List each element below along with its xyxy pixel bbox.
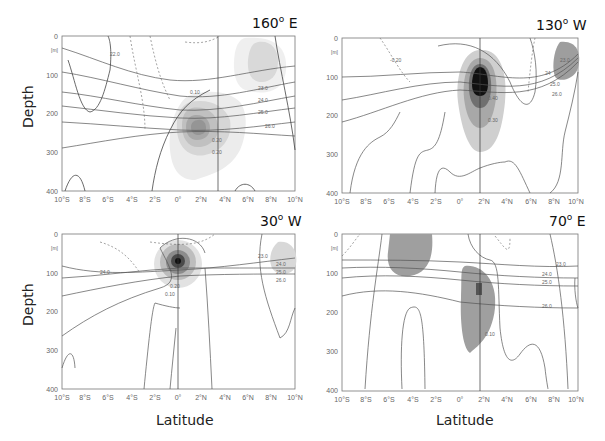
svg-text:6°S: 6°S	[383, 396, 395, 403]
svg-text:100: 100	[326, 74, 338, 81]
svg-text:4°S: 4°S	[407, 198, 419, 205]
svg-text:24: 24	[545, 70, 551, 76]
svg-text:2°S: 2°S	[149, 196, 161, 203]
anomaly-shading	[388, 234, 496, 353]
svg-text:2°N: 2°N	[195, 394, 207, 401]
svg-text:2°S: 2°S	[149, 394, 161, 401]
svg-text:6°N: 6°N	[242, 196, 254, 203]
panel-title-30w: 30o W	[260, 212, 302, 229]
svg-text:0°: 0°	[175, 394, 182, 401]
svg-text:4°N: 4°N	[501, 396, 513, 403]
svg-text:200: 200	[326, 112, 338, 119]
svg-text:200: 200	[46, 110, 58, 117]
svg-text:8°S: 8°S	[79, 394, 91, 401]
svg-text:25.0: 25.0	[258, 109, 268, 115]
svg-text:6°N: 6°N	[525, 396, 537, 403]
svg-text:8°S: 8°S	[360, 396, 372, 403]
svg-text:0: 0	[54, 33, 58, 40]
svg-text:300: 300	[46, 347, 58, 354]
chart-panel-160e: 22.0 23.0 24.0 25.0 26.0 0.20 0.20 0.10 …	[40, 30, 305, 210]
svg-text:24.0: 24.0	[258, 97, 268, 103]
svg-text:100: 100	[326, 270, 338, 277]
svg-text:26.0: 26.0	[552, 91, 562, 97]
svg-text:300: 300	[326, 151, 338, 158]
svg-text:-0.20: -0.20	[390, 57, 402, 63]
svg-text:26.0: 26.0	[265, 123, 275, 129]
chart-panel-30w: 24.0 23.0 24.0 25.0 26.0 0.20 0.10 10°S …	[40, 228, 305, 408]
svg-text:8°N: 8°N	[548, 198, 560, 205]
svg-text:0.30: 0.30	[488, 117, 498, 123]
svg-text:10°N: 10°N	[568, 396, 584, 403]
svg-text:10°S: 10°S	[54, 196, 70, 203]
svg-text:23.0: 23.0	[556, 261, 566, 267]
svg-text:0.10: 0.10	[165, 291, 175, 297]
svg-text:23.0: 23.0	[258, 85, 268, 91]
svg-text:100: 100	[46, 72, 58, 79]
panel-title-160e: 160o E	[252, 14, 298, 31]
svg-text:10°S: 10°S	[54, 394, 70, 401]
svg-text:4°N: 4°N	[219, 196, 231, 203]
svg-text:8°N: 8°N	[265, 394, 277, 401]
svg-text:200: 200	[46, 308, 58, 315]
svg-text:25.0: 25.0	[276, 269, 286, 275]
svg-text:0°: 0°	[457, 396, 464, 403]
svg-text:25.0: 25.0	[550, 81, 560, 87]
anomaly-shading	[170, 38, 286, 180]
svg-text:0.20: 0.20	[170, 283, 180, 289]
svg-text:2°S: 2°S	[430, 396, 442, 403]
svg-text:4°N: 4°N	[501, 198, 513, 205]
svg-text:22.0: 22.0	[110, 51, 120, 57]
svg-text:25.0: 25.0	[542, 279, 552, 285]
svg-text:[m]: [m]	[331, 245, 339, 251]
svg-text:0.20: 0.20	[212, 149, 222, 155]
svg-text:4°S: 4°S	[126, 196, 138, 203]
svg-text:0: 0	[334, 231, 338, 238]
svg-text:6°N: 6°N	[525, 198, 537, 205]
svg-text:0.20: 0.20	[212, 137, 222, 143]
svg-text:400: 400	[326, 387, 338, 394]
svg-text:24.0: 24.0	[542, 271, 552, 277]
svg-text:8°S: 8°S	[79, 196, 91, 203]
svg-text:[m]: [m]	[51, 245, 59, 251]
svg-text:4°N: 4°N	[219, 394, 231, 401]
svg-text:0: 0	[334, 35, 338, 42]
chart-panel-130w: -0.20 23.0 24 25.0 26.0 0.40 0.30 10°S 8…	[320, 32, 585, 212]
svg-text:300: 300	[326, 348, 338, 355]
svg-text:10°N: 10°N	[287, 394, 303, 401]
x-axis-label-right: Latitude	[436, 412, 494, 428]
svg-text:26.0: 26.0	[542, 303, 552, 309]
panel-title-70e: 70o E	[549, 212, 586, 229]
svg-text:6°S: 6°S	[383, 198, 395, 205]
svg-text:2°N: 2°N	[195, 196, 207, 203]
svg-text:10°S: 10°S	[334, 198, 350, 205]
svg-text:23.0: 23.0	[560, 57, 570, 63]
svg-text:200: 200	[326, 309, 338, 316]
svg-text:6°S: 6°S	[102, 196, 114, 203]
y-axis-label-top: Depth	[20, 85, 36, 128]
panel-title-130w: 130o W	[536, 16, 587, 33]
svg-text:8°S: 8°S	[360, 198, 372, 205]
x-axis-label-left: Latitude	[156, 412, 214, 428]
svg-text:400: 400	[46, 188, 58, 195]
svg-text:8°N: 8°N	[265, 196, 277, 203]
svg-text:0.10: 0.10	[190, 89, 200, 95]
svg-text:2°N: 2°N	[478, 396, 490, 403]
svg-text:8°N: 8°N	[548, 396, 560, 403]
svg-text:4°S: 4°S	[126, 394, 138, 401]
svg-text:10°N: 10°N	[287, 196, 303, 203]
svg-text:2°N: 2°N	[478, 198, 490, 205]
svg-text:4°S: 4°S	[407, 396, 419, 403]
svg-text:100: 100	[46, 270, 58, 277]
svg-text:[m]: [m]	[331, 49, 339, 55]
svg-text:24.0: 24.0	[276, 261, 286, 267]
svg-text:0.40: 0.40	[488, 95, 498, 101]
svg-text:6°S: 6°S	[102, 394, 114, 401]
svg-text:300: 300	[46, 149, 58, 156]
y-axis-label-bottom: Depth	[20, 283, 36, 326]
svg-text:10°S: 10°S	[334, 396, 350, 403]
svg-text:23.0: 23.0	[258, 253, 268, 259]
svg-text:[m]: [m]	[51, 47, 59, 53]
chart-panel-70e: 23.0 24.0 25.0 26.0 0.10 10°S 8°S 6°S 4°…	[320, 228, 585, 408]
svg-text:26.0: 26.0	[276, 277, 286, 283]
svg-text:0°: 0°	[457, 198, 464, 205]
